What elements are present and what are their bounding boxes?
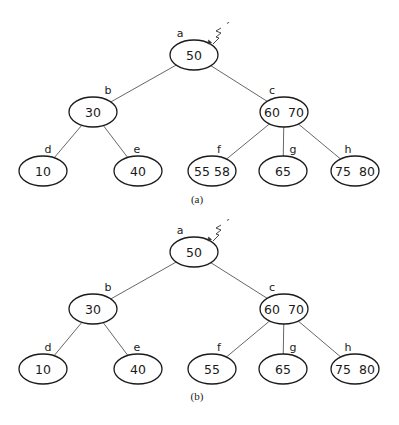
node-label-g: g	[290, 341, 297, 354]
edge-a-c	[211, 66, 267, 102]
tree-node-b: 30b	[69, 84, 117, 128]
pointer-arrow-icon: ′	[208, 217, 230, 242]
node-label-b: b	[105, 84, 112, 97]
node-keys: 55	[204, 362, 220, 377]
tree-node-d: 10d	[19, 143, 67, 187]
node-label-e: e	[134, 341, 141, 354]
tree-diagram: 50a30b60 70c10d40e55 58f65g75 80h′ (a) 5…	[0, 0, 399, 425]
node-keys: 60 70	[264, 302, 304, 317]
edge-c-g	[283, 324, 284, 354]
node-keys: 10	[35, 164, 51, 179]
node-keys: 30	[85, 105, 101, 120]
tree-node-d: 10d	[19, 341, 67, 385]
edge-c-f	[226, 321, 269, 357]
edge-b-e	[103, 323, 128, 356]
node-keys: 65	[275, 362, 291, 377]
edge-b-d	[54, 125, 82, 157]
caption-b: (b)	[191, 390, 204, 403]
node-label-g: g	[290, 143, 297, 156]
node-label-f: f	[217, 143, 222, 156]
node-keys: 40	[130, 164, 146, 179]
node-label-d: d	[45, 341, 52, 354]
tree-node-c: 60 70c	[260, 281, 308, 325]
edge-b-e	[103, 126, 127, 158]
edge-c-h	[298, 321, 340, 357]
caption-a: (a)	[191, 193, 204, 206]
pointer-arrow-icon: ′	[208, 20, 230, 45]
edge-b-d	[54, 322, 82, 355]
node-label-a: a	[177, 224, 184, 237]
node-label-b: b	[105, 281, 112, 294]
node-label-d: d	[45, 143, 52, 156]
edge-a-c	[211, 263, 267, 299]
node-keys: 55 58	[194, 164, 230, 179]
node-label-h: h	[345, 341, 352, 354]
node-label-e: e	[134, 143, 141, 156]
node-keys: 75 80	[335, 164, 375, 179]
panel-a: 50a30b60 70c10d40e55 58f65g75 80h′	[19, 20, 379, 187]
node-keys: 30	[85, 302, 101, 317]
tree-node-h: 75 80h	[331, 143, 379, 187]
pointer-mark: ′	[227, 20, 230, 33]
tree-node-c: 60 70c	[260, 84, 308, 128]
tree-node-b: 30b	[69, 281, 117, 325]
pointer-mark: ′	[227, 217, 230, 230]
tree-node-a: 50a	[170, 27, 218, 71]
node-keys: 10	[35, 362, 51, 377]
tree-node-f: 55f	[188, 341, 236, 385]
node-keys: 60 70	[264, 105, 304, 120]
node-label-c: c	[269, 281, 275, 294]
edge-a-b	[111, 65, 176, 102]
tree-node-a: 50a	[170, 224, 218, 268]
node-keys: 40	[130, 362, 146, 377]
tree-node-h: 75 80h	[331, 341, 379, 385]
tree-node-f: 55 58f	[188, 143, 236, 187]
edge-c-f	[227, 124, 270, 159]
node-keys: 75 80	[335, 362, 375, 377]
node-label-c: c	[269, 84, 275, 97]
node-keys: 50	[186, 48, 202, 63]
edge-c-h	[298, 124, 340, 159]
node-label-f: f	[217, 341, 222, 354]
node-keys: 65	[275, 164, 291, 179]
panel-b: 50a30b60 70c10d40e55f65g75 80h′	[19, 217, 379, 385]
node-label-h: h	[345, 143, 352, 156]
node-keys: 50	[186, 245, 202, 260]
edge-a-b	[111, 262, 176, 299]
node-label-a: a	[177, 27, 184, 40]
